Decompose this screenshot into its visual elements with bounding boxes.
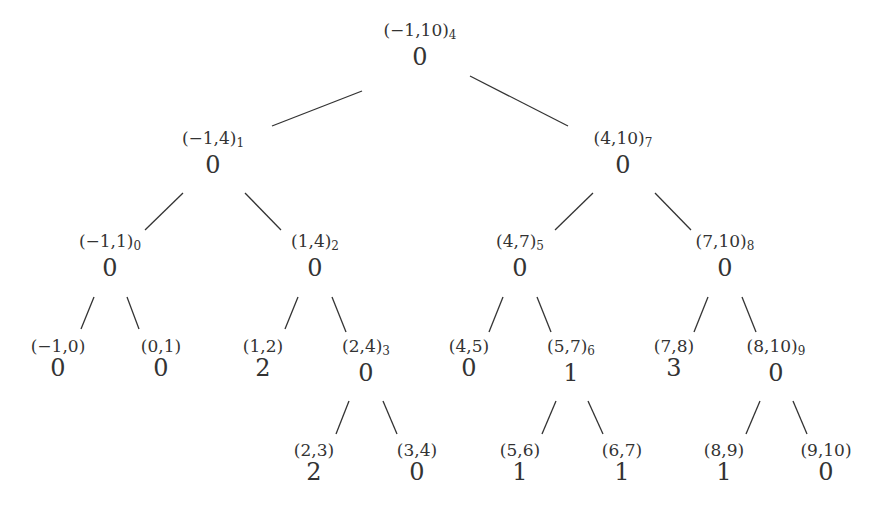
tree-node: (1,2)2 <box>243 336 283 380</box>
node-value: 1 <box>547 361 595 385</box>
interval-text: (−1,4) <box>182 128 237 148</box>
interval-text: (4,10) <box>594 128 645 148</box>
interval-text: (5,6) <box>500 440 540 460</box>
tree-node: (7,10)80 <box>696 231 755 280</box>
tree-edge <box>272 91 362 126</box>
interval-text: (7,10) <box>696 231 747 251</box>
tree-node: (8,9)1 <box>704 440 744 484</box>
node-index: 7 <box>645 136 653 150</box>
node-value: 0 <box>291 256 339 280</box>
tree-node: (4,5)0 <box>449 336 489 380</box>
node-interval-label: (4,5) <box>449 336 489 356</box>
interval-text: (9,10) <box>800 440 851 460</box>
interval-text: (−1,10) <box>383 20 448 40</box>
tree-node: (5,6)1 <box>500 440 540 484</box>
tree-node: (7,8)3 <box>654 336 694 380</box>
node-interval-label: (6,7) <box>602 440 642 460</box>
interval-text: (2,3) <box>294 440 334 460</box>
node-value: 2 <box>243 356 283 380</box>
node-interval-label: (8,10)9 <box>747 336 806 361</box>
node-value: 0 <box>79 256 141 280</box>
tree-edge <box>285 297 298 329</box>
node-value: 0 <box>182 153 244 177</box>
node-value: 0 <box>496 256 544 280</box>
interval-text: (−1,0) <box>31 336 86 356</box>
tree-edge <box>655 193 691 230</box>
node-index: 5 <box>536 239 544 253</box>
interval-text: (2,4) <box>342 336 382 356</box>
interval-text: (8,10) <box>747 336 798 356</box>
interval-text: (4,5) <box>449 336 489 356</box>
node-value: 0 <box>397 460 437 484</box>
tree-edge <box>81 297 94 329</box>
interval-text: (1,2) <box>243 336 283 356</box>
interval-text: (0,1) <box>141 336 181 356</box>
tree-node: (4,7)50 <box>496 231 544 280</box>
node-interval-label: (2,3) <box>294 440 334 460</box>
node-interval-label: (5,7)6 <box>547 336 595 361</box>
node-interval-label: (0,1) <box>141 336 181 356</box>
tree-node: (−1,4)10 <box>182 128 244 177</box>
interval-text: (5,7) <box>547 336 587 356</box>
tree-edge <box>793 401 807 434</box>
node-index: 4 <box>449 28 457 42</box>
interval-text: (7,8) <box>654 336 694 356</box>
node-interval-label: (4,7)5 <box>496 231 544 256</box>
node-interval-label: (−1,4)1 <box>182 128 244 153</box>
node-value: 1 <box>602 460 642 484</box>
node-interval-label: (1,4)2 <box>291 231 339 256</box>
node-value: 3 <box>654 356 694 380</box>
tree-edge <box>694 297 708 332</box>
tree-node: (−1,0)0 <box>31 336 86 380</box>
node-interval-label: (−1,10)4 <box>383 20 456 45</box>
tree-node: (3,4)0 <box>397 440 437 484</box>
tree-node: (5,7)61 <box>547 336 595 385</box>
node-interval-label: (5,6) <box>500 440 540 460</box>
node-interval-label: (7,10)8 <box>696 231 755 256</box>
tree-edge <box>245 193 281 230</box>
tree-node: (2,4)30 <box>342 336 390 385</box>
node-index: 1 <box>236 136 244 150</box>
interval-text: (3,4) <box>397 440 437 460</box>
node-value: 0 <box>747 361 806 385</box>
node-index: 3 <box>382 344 390 358</box>
node-value: 0 <box>31 356 86 380</box>
tree-node: (9,10)0 <box>800 440 851 484</box>
tree-edge <box>383 401 397 434</box>
node-interval-label: (9,10) <box>800 440 851 460</box>
interval-text: (−1,1) <box>79 231 134 251</box>
node-index: 0 <box>133 239 141 253</box>
tree-edge <box>145 193 183 230</box>
node-value: 1 <box>704 460 744 484</box>
tree-edge <box>746 401 760 434</box>
node-interval-label: (8,9) <box>704 440 744 460</box>
tree-edge <box>336 401 349 434</box>
node-interval-label: (7,8) <box>654 336 694 356</box>
node-interval-label: (2,4)3 <box>342 336 390 361</box>
node-value: 0 <box>800 460 851 484</box>
tree-edge <box>537 297 551 332</box>
node-value: 0 <box>383 45 456 69</box>
node-interval-label: (1,2) <box>243 336 283 356</box>
node-value: 0 <box>141 356 181 380</box>
node-index: 9 <box>798 344 806 358</box>
node-value: 0 <box>449 356 489 380</box>
tree-edge <box>470 76 568 126</box>
tree-node: (2,3)2 <box>294 440 334 484</box>
interval-text: (1,4) <box>291 231 331 251</box>
node-value: 0 <box>342 361 390 385</box>
tree-node: (−1,1)00 <box>79 231 141 280</box>
tree-node: (4,10)70 <box>594 128 653 177</box>
tree-edge <box>332 297 346 332</box>
node-value: 0 <box>594 153 653 177</box>
interval-text: (8,9) <box>704 440 744 460</box>
node-interval-label: (−1,1)0 <box>79 231 141 256</box>
node-interval-label: (−1,0) <box>31 336 86 356</box>
tree-node: (6,7)1 <box>602 440 642 484</box>
node-interval-label: (3,4) <box>397 440 437 460</box>
node-value: 1 <box>500 460 540 484</box>
node-value: 2 <box>294 460 334 484</box>
tree-node: (8,10)90 <box>747 336 806 385</box>
tree-edge <box>542 401 556 434</box>
tree-node: (0,1)0 <box>141 336 181 380</box>
